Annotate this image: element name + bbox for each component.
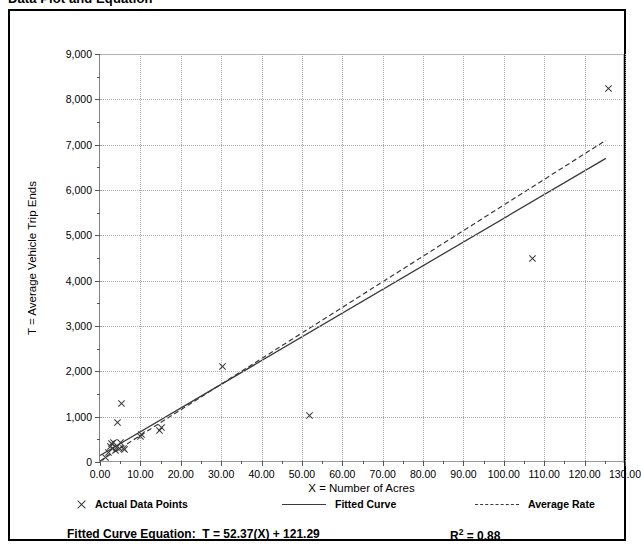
- x-axis-tick-label: 120.00: [569, 468, 601, 480]
- fitted-curve-line: [100, 158, 606, 455]
- y-axis-tick-label: 9,000: [66, 48, 92, 60]
- y-axis-tick-label: 0: [86, 456, 92, 468]
- r-squared-value: R2 = 0.88: [450, 527, 500, 543]
- r-squared-symbol: R: [450, 529, 459, 543]
- legend-item-fitted-curve: Fitted Curve: [282, 498, 396, 510]
- legend-label-fitted-curve: Fitted Curve: [335, 498, 396, 510]
- y-axis-tick: [95, 54, 100, 55]
- x-axis-title: X = Number of Acres: [99, 482, 624, 494]
- y-axis-title: T = Average Vehicle Trip Ends: [26, 181, 38, 335]
- x-axis-tick-minor: [241, 461, 242, 464]
- x-axis-tick-minor: [443, 461, 444, 464]
- equation-row: Fitted Curve Equation: T = 52.37(X) + 12…: [20, 527, 618, 549]
- y-axis-tick-minor: [97, 349, 100, 350]
- x-axis-tick: [383, 461, 384, 466]
- y-axis-tick: [95, 99, 100, 100]
- y-axis-tick-minor: [97, 77, 100, 78]
- x-axis-tick: [262, 461, 263, 466]
- x-axis-tick-label: 60.00: [329, 468, 355, 480]
- x-axis-tick: [140, 461, 141, 466]
- y-axis-tick-minor: [97, 167, 100, 168]
- x-axis-tick-minor: [201, 461, 202, 464]
- x-marker-icon: [75, 499, 86, 510]
- chart-frame: 0.0010.0020.0030.0040.0050.0060.0070.008…: [8, 9, 626, 541]
- equation-formula: T = 52.37(X) + 121.29: [202, 527, 319, 541]
- data-point-marker: [305, 411, 314, 420]
- r-squared-exponent: 2: [459, 527, 464, 537]
- solid-line-icon: [282, 504, 326, 505]
- data-point-marker: [137, 430, 146, 439]
- equation-prefix: Fitted Curve Equation:: [67, 527, 196, 541]
- x-axis-tick-label: 20.00: [168, 468, 194, 480]
- data-point-marker: [117, 399, 126, 408]
- y-axis-tick-label: 7,000: [66, 139, 92, 151]
- y-axis-tick-label: 2,000: [66, 365, 92, 377]
- x-axis-tick: [504, 461, 505, 466]
- x-axis-tick-minor: [161, 461, 162, 464]
- legend-label-actual-data-points: Actual Data Points: [95, 498, 188, 510]
- series-lines: [100, 54, 624, 461]
- y-axis-tick-minor: [97, 258, 100, 259]
- x-axis-tick-label: 10.00: [127, 468, 153, 480]
- y-axis-tick: [95, 281, 100, 282]
- x-axis-tick: [221, 461, 222, 466]
- data-point-marker: [217, 362, 226, 371]
- y-axis-tick: [95, 462, 100, 463]
- data-point-marker: [528, 254, 537, 263]
- data-point-marker: [156, 423, 165, 432]
- x-axis-tick-label: 100.00: [488, 468, 520, 480]
- x-axis-tick: [463, 461, 464, 466]
- x-axis-tick-label: 50.00: [289, 468, 315, 480]
- x-axis-tick: [302, 461, 303, 466]
- y-axis-tick: [95, 235, 100, 236]
- fitted-curve-equation: Fitted Curve Equation: T = 52.37(X) + 12…: [67, 527, 320, 541]
- y-axis-tick-minor: [97, 394, 100, 395]
- x-axis-tick-minor: [484, 461, 485, 464]
- x-axis-tick: [423, 461, 424, 466]
- plot-area: 0.0010.0020.0030.0040.0050.0060.0070.008…: [99, 54, 624, 462]
- legend-label-average-rate: Average Rate: [528, 498, 595, 510]
- x-axis-tick-label: 30.00: [208, 468, 234, 480]
- x-axis-tick-label: 80.00: [410, 468, 436, 480]
- y-axis-tick-minor: [97, 122, 100, 123]
- x-axis-tick-minor: [322, 461, 323, 464]
- y-axis-tick-minor: [97, 213, 100, 214]
- x-axis-tick: [585, 461, 586, 466]
- y-axis-tick-label: 3,000: [66, 320, 92, 332]
- y-axis-tick: [95, 371, 100, 372]
- x-axis-tick-label: 110.00: [529, 468, 560, 480]
- x-axis-tick-minor: [605, 461, 606, 464]
- r-squared-number: = 0.88: [467, 529, 501, 543]
- y-axis-tick-minor: [97, 439, 100, 440]
- x-axis-tick-minor: [363, 461, 364, 464]
- x-axis-tick-label: 0.00: [90, 468, 110, 480]
- data-point-marker: [604, 84, 613, 93]
- y-axis-tick-label: 5,000: [66, 229, 92, 241]
- gridline-vertical: [625, 54, 626, 461]
- x-axis-tick: [181, 461, 182, 466]
- y-axis-tick: [95, 326, 100, 327]
- dashed-line-icon: [475, 504, 519, 505]
- y-axis-tick-label: 8,000: [66, 93, 92, 105]
- y-axis-tick-minor: [97, 303, 100, 304]
- x-axis-tick: [544, 461, 545, 466]
- x-axis-tick-label: 70.00: [370, 468, 396, 480]
- y-axis-tick: [95, 417, 100, 418]
- y-axis-tick-label: 4,000: [66, 275, 92, 287]
- data-point-marker: [112, 418, 121, 427]
- x-axis-tick: [625, 461, 626, 466]
- data-point-marker: [120, 445, 129, 454]
- page-title: Data Plot and Equation: [8, 0, 152, 6]
- x-axis-tick-minor: [120, 461, 121, 464]
- y-axis-tick-label: 1,000: [66, 411, 92, 423]
- x-axis-tick-label: 130.00: [609, 468, 641, 480]
- x-axis-tick-minor: [282, 461, 283, 464]
- y-axis-tick: [95, 145, 100, 146]
- y-axis-tick: [95, 190, 100, 191]
- legend-item-actual-data-points: Actual Data Points: [75, 498, 188, 510]
- average-rate-line: [100, 140, 606, 461]
- x-axis-tick-minor: [524, 461, 525, 464]
- x-axis-tick-label: 40.00: [248, 468, 274, 480]
- x-axis-tick: [342, 461, 343, 466]
- x-axis-tick-minor: [403, 461, 404, 464]
